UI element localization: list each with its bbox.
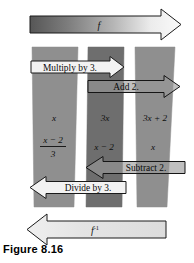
right-column-top-expression: 3x + 2 <box>142 113 167 123</box>
add-2-label: Add 2. <box>113 82 139 92</box>
left-column-fraction-numerator: x − 2 <box>42 135 63 145</box>
forward-arrow-shape <box>30 9 181 40</box>
figure-caption: Figure 8.16 <box>3 243 63 255</box>
right-column-band <box>135 47 175 207</box>
subtract-2-arrow: Subtract 2. <box>86 157 185 179</box>
middle-column-bottom-expression: x − 2 <box>93 142 114 152</box>
inverse-arrow-exponent: -1 <box>94 224 99 231</box>
forward-function-arrow: f <box>30 9 181 40</box>
figure-diagram: f x x − 2 3 3x x − 2 3x + 2 x Multiply b… <box>0 0 194 263</box>
left-column-fraction-denominator: 3 <box>50 149 56 159</box>
function-inverse-diagram: f x x − 2 3 3x x − 2 3x + 2 x Multiply b… <box>0 0 194 263</box>
middle-column-top-expression: 3x <box>100 113 111 123</box>
inverse-function-arrow: f-1 <box>27 214 166 245</box>
multiply-by-3-label: Multiply by 3. <box>43 63 97 73</box>
divide-by-3-label: Divide by 3. <box>65 183 112 193</box>
subtract-2-label: Subtract 2. <box>126 163 167 173</box>
